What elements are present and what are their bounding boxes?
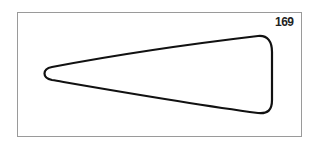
figure-number: 169 — [275, 15, 294, 29]
outline-drawing — [0, 0, 318, 147]
triangle-outline — [45, 36, 273, 113]
